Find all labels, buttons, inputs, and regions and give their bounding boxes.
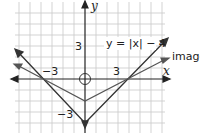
x-axis-arrow-left-icon	[11, 76, 18, 82]
y-axis-arrow-up-icon	[82, 1, 88, 8]
coordinate-graph: y x −3 3 3 −3 y = |x| − 4 image	[0, 0, 200, 138]
arrow-down-icon	[82, 121, 88, 128]
equation-label: y = |x| − 4	[106, 37, 166, 50]
image-label: image	[172, 50, 200, 63]
axes	[11, 1, 170, 133]
graph-y-abs-x-minus-4	[15, 38, 168, 128]
tick-y-pos3: 3	[75, 40, 82, 53]
tick-y-neg3: −3	[57, 108, 73, 121]
image-arrow-right-icon	[161, 58, 169, 63]
x-axis-label: x	[163, 64, 170, 78]
tick-x-neg3: −3	[42, 65, 58, 78]
y-axis-label: y	[90, 0, 98, 13]
grid	[15, 2, 165, 133]
tick-x-pos3: 3	[113, 65, 120, 78]
